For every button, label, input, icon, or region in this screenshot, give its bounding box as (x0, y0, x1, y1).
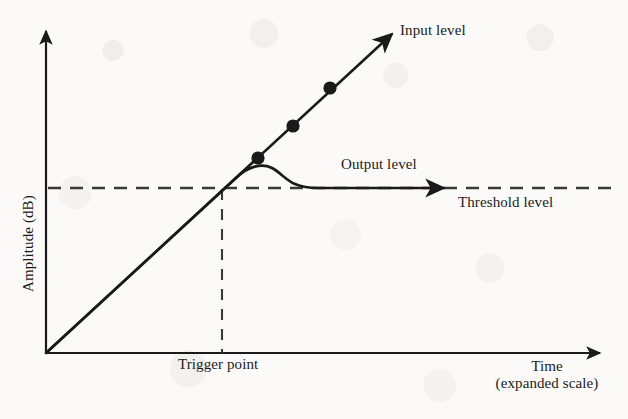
output-level-curve (46, 166, 444, 353)
output-level-label: Output level (341, 156, 417, 173)
threshold-level-label: Threshold level (458, 194, 553, 211)
x-axis-label-line1: Time (531, 358, 563, 374)
figure-canvas: Amplitude (dB) Time (expanded scale) Inp… (0, 0, 628, 419)
input-level-label: Input level (400, 22, 466, 39)
x-axis-label-line2: (expanded scale) (472, 375, 622, 392)
input-level-marker (251, 151, 264, 164)
input-level-marker (286, 119, 299, 132)
input-level-marker (323, 81, 336, 94)
x-axis-label: Time (expanded scale) (472, 358, 622, 392)
y-axis-label: Amplitude (dB) (20, 195, 37, 292)
trigger-point-label: Trigger point (178, 356, 258, 373)
